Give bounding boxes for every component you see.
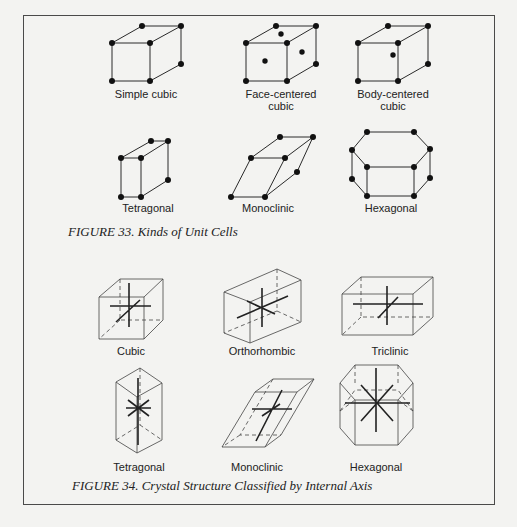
figure-34-caption: FIGURE 34. Crystal Structure Classified …: [72, 478, 372, 494]
label-hexagonal-cell: Hexagonal: [351, 202, 431, 214]
label-monoclinic: Monoclinic: [217, 461, 297, 473]
label-text: Face-centered: [246, 88, 317, 100]
label-tetragonal: Tetragonal: [99, 461, 179, 473]
label-triclinic: Triclinic: [350, 345, 430, 357]
label-orthorhombic: Orthorhombic: [222, 345, 302, 357]
label-tetragonal-cell: Tetragonal: [108, 202, 188, 214]
tetragonal-axis-structure-icon: [116, 368, 162, 453]
label-text: cubic: [268, 100, 294, 112]
figure-33-caption: FIGURE 33. Kinds of Unit Cells: [68, 224, 238, 240]
body-centered-cubic-cell-icon: [355, 23, 431, 84]
label-text: Body-centered: [357, 88, 429, 100]
label-text: Simple cubic: [115, 88, 177, 100]
label-text: cubic: [380, 100, 406, 112]
label-monoclinic-cell: Monoclinic: [223, 202, 313, 214]
orthorhombic-axis-structure-icon: [224, 269, 301, 343]
tetragonal-cell-icon: [118, 138, 171, 200]
simple-cubic-cell-icon: [109, 23, 184, 84]
monoclinic-axis-structure-icon: [222, 379, 314, 447]
label-face-centered-cubic: Face-centered cubic: [231, 88, 331, 112]
face-centered-cubic-cell-icon: [243, 23, 319, 84]
label-hexagonal: Hexagonal: [336, 461, 416, 473]
cubic-axis-structure-icon: [99, 279, 163, 339]
hexagonal-axis-structure-icon: [340, 365, 413, 445]
label-simple-cubic: Simple cubic: [96, 88, 196, 100]
triclinic-axis-structure-icon: [342, 277, 433, 335]
hexagonal-cell-icon: [349, 129, 433, 199]
monoclinic-cell-icon: [228, 134, 316, 200]
label-cubic: Cubic: [91, 345, 171, 357]
label-body-centered-cubic: Body-centered cubic: [343, 88, 443, 112]
diagram-canvas: [0, 0, 517, 527]
